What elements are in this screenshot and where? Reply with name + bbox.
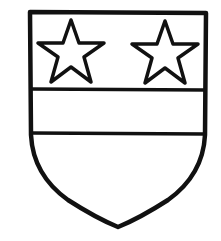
fess-top-line bbox=[31, 89, 205, 90]
fess-bottom-line bbox=[31, 133, 205, 134]
shield-drawing bbox=[0, 0, 221, 241]
shield-figure: Heraldic shield: two five-pointed stars … bbox=[0, 0, 221, 241]
